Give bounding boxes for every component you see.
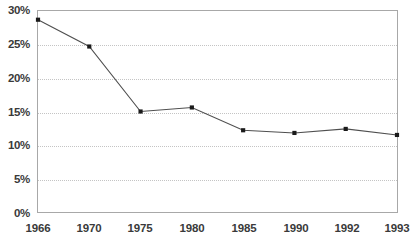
y-axis-tick-label: 0% <box>0 207 30 219</box>
plot-area <box>37 10 398 213</box>
y-axis-tick-label: 20% <box>0 72 30 84</box>
y-axis-tick-label: 25% <box>0 38 30 50</box>
x-axis-tick-label: 1985 <box>232 222 257 234</box>
data-point <box>36 18 40 22</box>
data-point <box>344 127 348 131</box>
y-axis-tick-label: 30% <box>0 4 30 16</box>
data-point <box>190 105 194 109</box>
series-plot <box>38 11 397 212</box>
data-point <box>87 44 91 48</box>
x-axis-tick-label: 1970 <box>77 222 102 234</box>
series-line <box>38 20 397 135</box>
x-axis-tick-label: 1975 <box>128 222 153 234</box>
line-chart: 30% 25% 20% 15% 10% 5% 0% 1966 1970 1975… <box>0 0 412 249</box>
x-axis-tick-label: 1966 <box>26 222 51 234</box>
y-axis-tick-label: 10% <box>0 139 30 151</box>
x-axis-tick-label: 1990 <box>284 222 309 234</box>
data-point <box>241 128 245 132</box>
y-axis-tick-label: 15% <box>0 106 30 118</box>
x-axis-tick-label: 1992 <box>335 222 360 234</box>
x-axis-tick-label: 1980 <box>180 222 205 234</box>
data-point <box>138 109 142 113</box>
data-point <box>395 133 399 137</box>
x-axis-tick-label: 1993 <box>385 222 410 234</box>
data-point <box>292 131 296 135</box>
y-axis-tick-label: 5% <box>0 173 30 185</box>
